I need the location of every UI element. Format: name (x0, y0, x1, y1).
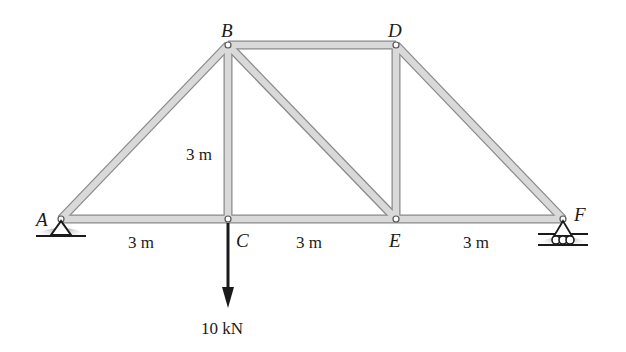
dimension-ac: 3 m (128, 233, 154, 252)
member-fill-ab (61, 45, 228, 219)
dimension-bc-height: 3 m (186, 145, 212, 164)
truss-diagram: A B C D E F 3 m 3 m 3 m 3 m 10 kN (0, 0, 626, 352)
member-fill-df (396, 45, 563, 219)
joint-pin-icon-e (393, 216, 399, 222)
load-arrow (222, 223, 234, 308)
joint-label-d: D (387, 20, 402, 41)
dimension-ce: 3 m (296, 233, 322, 252)
joint-pin-icon-b (225, 42, 231, 48)
joint-label-a: A (34, 209, 48, 230)
joint-label-e: E (388, 230, 401, 251)
arrow-down-icon (222, 287, 234, 308)
joint-pin-icon-d (393, 42, 399, 48)
roller-wheel-icon (566, 236, 574, 244)
truss-members (61, 45, 563, 219)
joint-pin-icon-c (225, 216, 231, 222)
joint-label-b: B (221, 20, 233, 41)
load-label: 10 kN (201, 319, 243, 338)
member-fill-be (228, 45, 396, 219)
joint-label-c: C (236, 230, 249, 251)
joint-label-f: F (573, 204, 586, 225)
dimension-ef: 3 m (463, 233, 489, 252)
